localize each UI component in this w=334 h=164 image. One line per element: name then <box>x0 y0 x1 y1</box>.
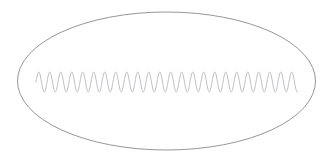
figure-canvas <box>0 0 334 164</box>
outline-ellipse <box>18 12 316 150</box>
figure-svg <box>0 0 334 164</box>
sine-waveform <box>36 72 298 92</box>
